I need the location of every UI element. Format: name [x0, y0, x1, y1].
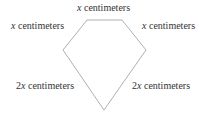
pentagon-diagram: x centimeters x centimeters x centimeter… [0, 0, 209, 118]
unit: centimeters [141, 80, 190, 91]
unit: centimeters [25, 80, 74, 91]
unit: centimeters [81, 2, 130, 13]
top-side-label: x centimeters [77, 3, 130, 13]
lower-right-side-label: 2x centimeters [132, 81, 190, 91]
unit: centimeters [15, 20, 64, 31]
upper-left-side-label: x centimeters [11, 21, 64, 31]
unit: centimeters [146, 20, 195, 31]
upper-right-side-label: x centimeters [142, 21, 195, 31]
pentagon-outline [63, 20, 146, 110]
lower-left-side-label: 2x centimeters [16, 81, 74, 91]
pentagon-shape [0, 0, 209, 118]
